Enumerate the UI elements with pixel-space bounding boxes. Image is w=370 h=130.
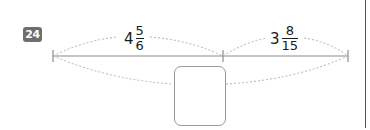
upper-arc-left-b <box>150 37 223 56</box>
segment-2-fraction: 8 15 <box>282 25 299 52</box>
segment-2-whole: 3 <box>270 30 280 48</box>
upper-arc-left-a <box>53 37 118 56</box>
segment-1-whole: 4 <box>124 30 134 48</box>
segment-2-denominator: 15 <box>282 40 299 52</box>
lower-arc-right <box>226 56 348 84</box>
segment-1-fraction: 5 6 <box>136 25 144 52</box>
right-border-rule <box>365 0 366 128</box>
segment-1-numerator: 5 <box>136 25 144 37</box>
upper-arc-right-a <box>223 38 267 56</box>
segment-2-numerator: 8 <box>286 25 294 37</box>
answer-box[interactable] <box>174 66 226 126</box>
lower-arc-left <box>53 56 173 84</box>
segment-2-label: 3 8 15 <box>270 25 298 52</box>
segment-1-denominator: 6 <box>136 40 144 52</box>
upper-arc-right-b <box>304 38 348 56</box>
segment-1-label: 4 5 6 <box>124 25 144 52</box>
